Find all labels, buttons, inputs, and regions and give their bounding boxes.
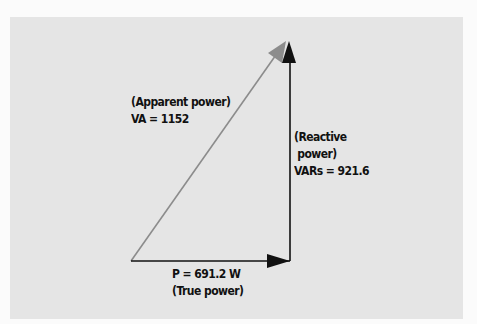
true-arrowhead-icon: [267, 254, 290, 268]
apparent-power-value: VA = 1152: [131, 111, 230, 128]
apparent-power-caption: (Apparent power): [131, 94, 230, 111]
apparent-power-label: (Apparent power) VA = 1152: [131, 94, 230, 128]
reactive-power-caption-2: power): [294, 146, 369, 163]
true-power-caption: (True power): [172, 283, 243, 300]
true-power-value: P = 691.2 W: [172, 266, 243, 283]
true-power-label: P = 691.2 W (True power): [172, 266, 243, 300]
reactive-power-caption-1: (Reactive: [294, 129, 369, 146]
reactive-power-label: (Reactive power) VARs = 921.6: [294, 129, 369, 180]
reactive-power-value: VARs = 921.6: [294, 163, 369, 180]
apparent-power-vector: [131, 41, 286, 261]
